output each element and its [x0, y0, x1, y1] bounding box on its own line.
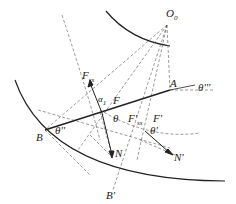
inner-arc — [106, 11, 170, 46]
label-B-prime: B' — [106, 190, 115, 201]
label-N-prime: N' — [174, 152, 184, 163]
label-F-prime: F' — [153, 113, 162, 124]
label-O0: O0 — [166, 8, 177, 22]
label-N: N — [115, 148, 122, 159]
label-F: F — [113, 95, 120, 106]
label-theta2: θ'' — [55, 125, 65, 136]
outer-arc — [15, 80, 225, 181]
label-A: A — [170, 78, 177, 89]
label-alpha1: α1 — [98, 95, 106, 107]
label-theta3: θ''' — [198, 82, 210, 93]
label-B: B — [36, 132, 43, 143]
label-Fss-prime: F'ss — [128, 113, 143, 127]
label-theta: θ — [113, 113, 118, 124]
diagram: O0 A θ''' Fss α1 F θ F'ss F' θ' B θ'' N … — [0, 0, 236, 204]
label-Fss: Fss — [82, 70, 94, 84]
label-theta-prime: θ' — [150, 125, 158, 136]
